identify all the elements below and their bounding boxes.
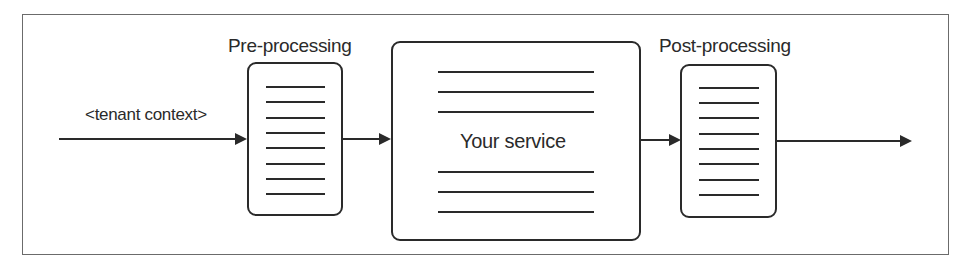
arrow-head-icon [235,133,247,145]
service-to-post-arrow [641,139,671,141]
service-line [438,91,594,93]
post-line [699,194,759,196]
service-line [438,111,594,113]
output-arrow [777,140,902,142]
tenant-context-label: <tenant context> [85,105,207,125]
service-title: Your service [460,130,566,153]
pre-line [266,101,325,103]
service-line [438,211,594,213]
pre-line [266,86,325,88]
post-line [699,102,759,104]
pre-line [266,163,325,165]
post-line [699,87,759,89]
pre-line [266,117,325,119]
post-line [699,179,759,181]
pre-line [266,132,325,134]
arrow-head-icon [379,133,391,145]
pre-line [266,178,325,180]
pre-processing-title: Pre-processing [228,35,352,57]
pre-to-service-arrow [343,138,381,140]
post-line [699,117,759,119]
post-line [699,148,759,150]
pre-line [266,193,325,195]
service-line [438,71,594,73]
post-line [699,133,759,135]
post-line [699,163,759,165]
pre-line [266,147,325,149]
arrow-head-icon [900,135,912,147]
service-line [438,171,594,173]
input-arrow [59,138,237,140]
service-line [438,191,594,193]
post-processing-title: Post-processing [659,35,791,57]
